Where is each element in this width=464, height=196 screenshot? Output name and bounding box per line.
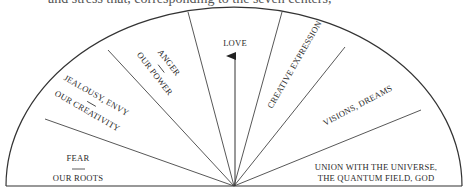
union-label: UNION WITH THE UNIVERSE,	[315, 162, 437, 172]
fear-label: FEAR	[67, 153, 90, 163]
fear-sublabel: OUR ROOTS	[53, 173, 103, 183]
love-label: LOVE	[223, 38, 247, 48]
segment-jealousy: JEALOUSY, ENVY OUR CREATIVITY	[53, 72, 131, 133]
chakra-fan-diagram: FEAR OUR ROOTS JEALOUSY, ENVY OUR CREATI…	[0, 0, 464, 196]
visions-dreams-label: VISIONS, DREAMS	[321, 83, 394, 128]
segment-union: UNION WITH THE UNIVERSE, THE QUANTUM FIE…	[315, 162, 437, 183]
creative-expression-label: CREATIVE EXPRESSION	[265, 18, 324, 110]
segment-fear: FEAR OUR ROOTS	[53, 153, 103, 183]
union-sublabel: THE QUANTUM FIELD, GOD	[318, 173, 435, 183]
